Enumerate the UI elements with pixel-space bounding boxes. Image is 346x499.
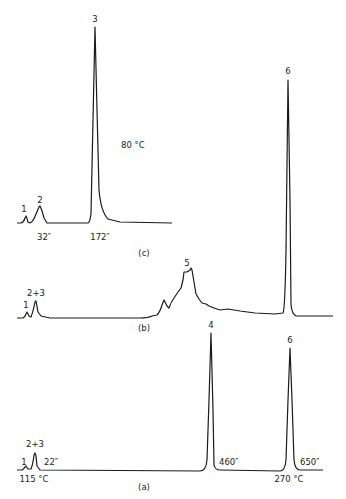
peak-label-2-3: 2+3 xyxy=(26,439,44,449)
retention-time-650: 650″ xyxy=(300,457,319,467)
trace-a xyxy=(17,333,323,471)
peak-label-3: 3 xyxy=(92,14,97,24)
peak-label-2: 2 xyxy=(37,195,42,205)
panel-label-b: (b) xyxy=(138,323,150,333)
retention-time-460: 460″ xyxy=(219,457,238,467)
temperature-115c: 115 °C xyxy=(19,474,48,484)
peak-label-1: 1 xyxy=(21,204,26,214)
panel-label-c: (c) xyxy=(138,248,149,258)
panel-label-a: (a) xyxy=(138,482,150,492)
chromatogram-a: 1 2+3 22″ 115 °C 4 460″ 6 650″ 270 °C (a… xyxy=(17,320,323,492)
temperature-270c: 270 °C xyxy=(274,474,303,484)
peak-label-1: 1 xyxy=(21,457,26,467)
temperature-80c: 80 °C xyxy=(121,140,145,150)
peak-label-4: 4 xyxy=(208,320,213,330)
retention-time-32: 32″ xyxy=(37,232,51,242)
peak-label-6: 6 xyxy=(285,66,290,76)
retention-time-172: 172″ xyxy=(90,232,109,242)
peak-label-6: 6 xyxy=(287,335,292,345)
chromatogram-c: 1 2 3 32″ 172″ 80 °C (c) xyxy=(17,14,172,258)
peak-label-5: 5 xyxy=(184,258,189,268)
trace-c xyxy=(17,27,172,223)
peak-label-2-3: 2+3 xyxy=(27,288,45,298)
chromatogram-figure: 1 2 3 32″ 172″ 80 °C (c) 1 2+3 5 6 (b) 1… xyxy=(0,0,346,499)
chromatogram-b: 1 2+3 5 6 (b) xyxy=(17,66,333,333)
retention-time-22: 22″ xyxy=(44,457,58,467)
trace-b xyxy=(17,80,333,318)
peak-label-1: 1 xyxy=(23,300,28,310)
